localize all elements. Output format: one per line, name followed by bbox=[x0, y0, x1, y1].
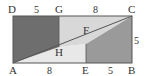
length-eb: 5 bbox=[108, 65, 113, 76]
label-c: C bbox=[128, 3, 135, 15]
label-a: A bbox=[9, 64, 17, 76]
length-gc: 8 bbox=[93, 4, 98, 15]
label-b: B bbox=[128, 64, 135, 76]
label-g: G bbox=[55, 3, 63, 15]
label-e: E bbox=[82, 64, 89, 76]
diagram-canvas: D G C A E B F H 5 8 8 5 5 bbox=[0, 0, 145, 76]
label-d: D bbox=[8, 3, 16, 15]
length-bc: 5 bbox=[134, 35, 139, 46]
label-f: F bbox=[83, 24, 89, 36]
geometry-figure: D G C A E B F H 5 8 8 5 5 bbox=[0, 0, 145, 76]
label-h: H bbox=[55, 46, 63, 58]
length-ae: 8 bbox=[47, 65, 52, 76]
length-dg: 5 bbox=[34, 4, 39, 15]
